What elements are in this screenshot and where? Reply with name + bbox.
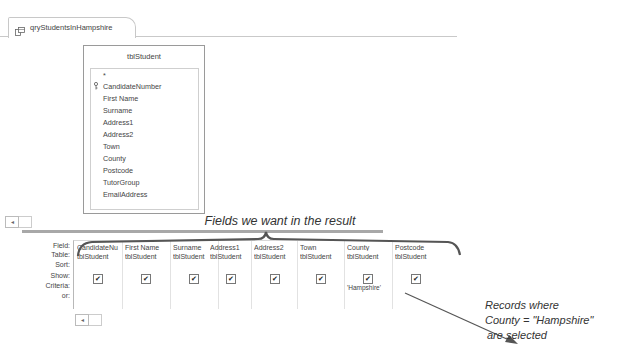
callout-line-3: are selected (485, 328, 593, 343)
callout-annotation: Records where County = "Hampshire" are s… (485, 298, 593, 343)
callout-line-2: County = "Hampshire" (485, 313, 593, 328)
brace-icon (78, 232, 460, 256)
callout-line-1: Records where (485, 298, 593, 313)
